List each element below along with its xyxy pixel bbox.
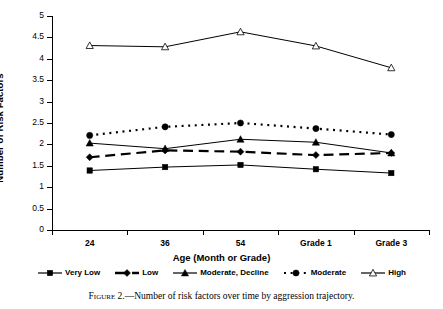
data-point (312, 152, 319, 159)
series-very-low (87, 162, 394, 176)
legend-symbol (293, 270, 299, 276)
chart-canvas: Number of Risk Factors 00.511.522.533.54… (0, 0, 443, 255)
legend-marker-circle-filled-icon (283, 268, 309, 278)
legend-symbol (47, 270, 52, 275)
legend-label: Moderate (311, 268, 347, 278)
data-point (237, 120, 243, 126)
legend-label: Very Low (65, 268, 100, 278)
series-high (86, 28, 395, 71)
data-point (388, 131, 394, 137)
data-point (237, 148, 244, 155)
legend-marker-diamond-filled-icon (114, 268, 140, 278)
x-axis-title: Age (Month or Grade) (0, 252, 443, 263)
figure-caption: Figure 2.—Number of risk factors over ti… (0, 291, 443, 301)
legend-marker-square-filled-icon (37, 268, 63, 278)
legend-item-moderate-decline[interactable]: Moderate, Decline (172, 268, 268, 278)
caption-dash: — (125, 291, 135, 301)
data-point (313, 167, 318, 172)
series-low (86, 147, 395, 161)
data-point (86, 140, 93, 147)
data-point (238, 162, 243, 167)
legend-symbol (124, 270, 131, 277)
legend-marker-triangle-open-icon (360, 268, 386, 278)
series-layer (0, 0, 443, 255)
caption-text: Number of risk factors over time by aggr… (134, 291, 354, 301)
legend-marker-triangle-filled-icon (172, 268, 198, 278)
data-point (162, 124, 168, 130)
figure-panel: Number of Risk Factors 00.511.522.533.54… (0, 0, 443, 309)
data-point (87, 168, 92, 173)
legend-item-very-low[interactable]: Very Low (37, 268, 100, 278)
figure-number: Figure 2. (89, 291, 125, 301)
data-point (87, 132, 93, 138)
data-point (389, 170, 394, 175)
legend-item-low[interactable]: Low (114, 268, 158, 278)
legend-label: Low (142, 268, 158, 278)
legend-item-high[interactable]: High (360, 268, 406, 278)
data-point (86, 154, 93, 161)
data-point (162, 164, 167, 169)
series-line (90, 32, 392, 68)
chart-legend: Very LowLowModerate, DeclineModerateHigh (0, 268, 443, 278)
data-point (237, 28, 244, 35)
legend-item-moderate[interactable]: Moderate (283, 268, 347, 278)
data-point (313, 125, 319, 131)
legend-label: Moderate, Decline (200, 268, 268, 278)
legend-label: High (388, 268, 406, 278)
